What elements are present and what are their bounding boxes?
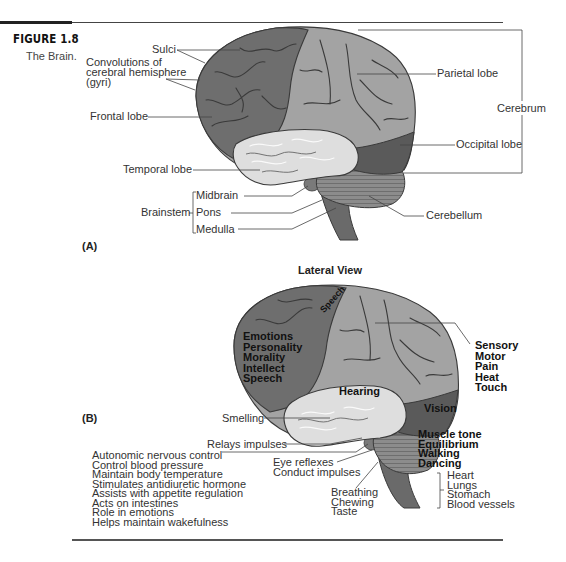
cerebellum-functions: Muscle tone Equilibrium Walking Dancing [418,430,482,468]
label-sulci: Sulci [152,43,176,55]
label-parietal-lobe: Parietal lobe [437,67,498,79]
label-vision: Vision [424,403,457,414]
label-occipital-lobe: Occipital lobe [456,138,522,150]
hypothalamus-functions: Autonomic nervous control Control blood … [92,451,246,527]
label-midbrain: Midbrain [196,189,238,201]
label-hearing: Hearing [339,386,380,397]
brain-a [196,27,415,240]
label-smelling: Smelling [222,412,264,424]
label-cerebrum: Cerebrum [497,101,546,115]
panel-b-title: Lateral View [298,264,362,276]
parietal-functions: Sensory Motor Pain Heat Touch [475,340,518,393]
label-cerebellum: Cerebellum [426,209,482,221]
label-medulla: Medulla [196,223,235,235]
label-brainstem: Brainstem [141,206,191,218]
medulla-functions: Heart Lungs Stomach Blood vessels [447,471,515,509]
midbrain-functions: Eye reflexes Conduct impulses [273,458,360,477]
label-temporal-lobe: Temporal lobe [123,163,192,175]
panel-a-label: (A) [82,240,97,252]
label-frontal-lobe: Frontal lobe [90,110,148,122]
frontal-functions: Emotions Personality Morality Intellect … [243,331,302,384]
label-convolutions: Convolutions of cerebral hemisphere (gyr… [86,57,186,87]
panel-b-label: (B) [82,412,97,424]
pons-functions: Breathing Chewing Taste [331,488,378,517]
label-pons: Pons [196,206,221,218]
